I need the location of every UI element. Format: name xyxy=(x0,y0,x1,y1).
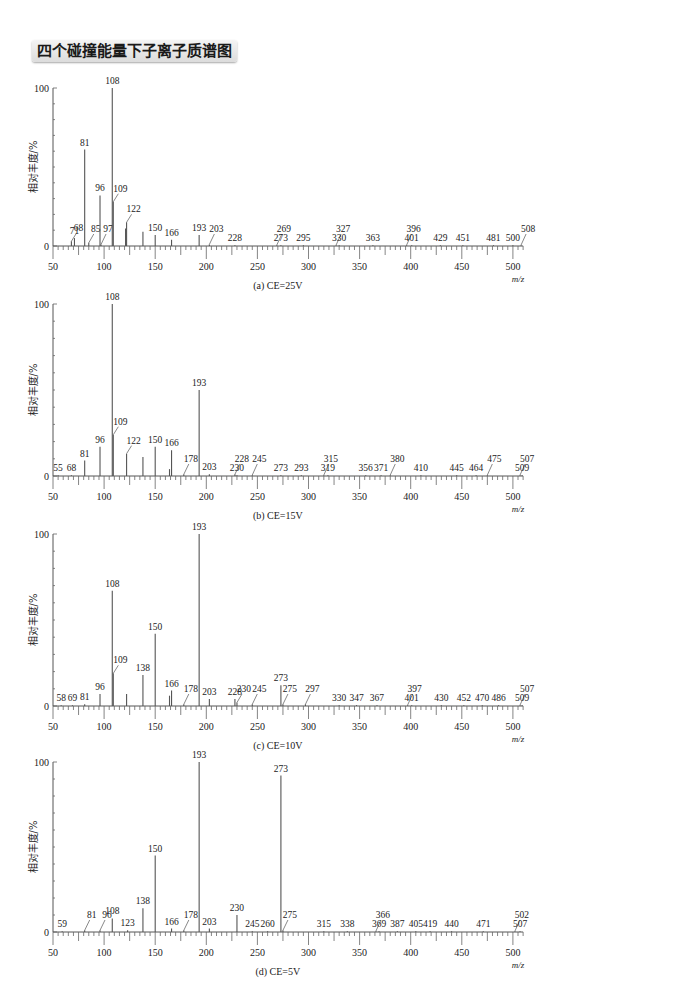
peak-label: 419 xyxy=(423,919,438,929)
peak-label: 440 xyxy=(444,919,459,929)
peak-label: 81 xyxy=(80,449,90,459)
peak-label: 500 xyxy=(506,233,521,243)
x-tick-label: 450 xyxy=(454,721,469,732)
x-tick-label: 500 xyxy=(505,261,520,272)
peak-label: 96 xyxy=(95,682,105,692)
y-tick-label: 100 xyxy=(34,299,49,310)
peak-label: 464 xyxy=(469,463,484,473)
peak-label: 81 xyxy=(80,692,90,702)
peak-label: 273 xyxy=(274,673,289,683)
x-axis-label: m/z xyxy=(512,734,525,744)
peak-label: 178 xyxy=(184,684,199,694)
peak-label: 509 xyxy=(515,463,530,473)
peak-label: 96 xyxy=(95,183,105,193)
peak-label: 367 xyxy=(370,693,385,703)
peak-label: 166 xyxy=(164,438,179,448)
peak-label: 319 xyxy=(321,463,336,473)
peak-label: 410 xyxy=(414,463,429,473)
panel-caption: (d) CE=5V xyxy=(255,966,301,978)
peak-label: 203 xyxy=(202,917,217,927)
y-axis-label: 相对丰度/% xyxy=(27,141,39,194)
x-tick-label: 50 xyxy=(48,261,58,272)
spectrum-chart-c: 0100相对丰度/%50100150200250300350400450500m… xyxy=(0,530,676,755)
peak-label: 150 xyxy=(148,622,163,632)
x-tick-label: 200 xyxy=(199,721,214,732)
peak-label: 273 xyxy=(274,233,289,243)
peak-label: 507 xyxy=(513,919,528,929)
peak-label: 96 xyxy=(95,435,105,445)
peak-label: 193 xyxy=(192,522,207,532)
x-tick-label: 250 xyxy=(250,721,265,732)
peak-label: 245 xyxy=(252,454,267,464)
peak-label: 387 xyxy=(390,919,405,929)
y-tick-label: 100 xyxy=(34,757,49,768)
x-tick-label: 150 xyxy=(148,947,163,958)
panel-caption: (a) CE=25V xyxy=(253,280,303,292)
peak-label: 230 xyxy=(230,903,245,913)
x-tick-label: 100 xyxy=(97,261,112,272)
peak-label: 509 xyxy=(515,693,530,703)
x-tick-label: 450 xyxy=(454,947,469,958)
peak-label: 275 xyxy=(283,910,298,920)
peak-label: 166 xyxy=(164,679,179,689)
x-tick-label: 400 xyxy=(403,947,418,958)
panel-caption: (b) CE=15V xyxy=(253,510,304,522)
x-tick-label: 350 xyxy=(352,947,367,958)
spectrum-panel-c: 0100相对丰度/%50100150200250300350400450500m… xyxy=(0,530,676,755)
y-tick-label: 0 xyxy=(44,927,49,938)
x-tick-label: 250 xyxy=(250,261,265,272)
peak-label: 123 xyxy=(120,918,135,928)
peak-label: 150 xyxy=(148,844,163,854)
peak-label: 471 xyxy=(476,919,491,929)
peak-label: 166 xyxy=(164,228,179,238)
peak-label: 451 xyxy=(456,233,471,243)
x-axis-label: m/z xyxy=(512,504,525,514)
peaks: 5568819610810912215016617819320322823024… xyxy=(53,292,534,476)
x-tick-label: 300 xyxy=(301,261,316,272)
peak-label: 452 xyxy=(457,693,472,703)
peak-label: 203 xyxy=(202,462,217,472)
peak-label: 108 xyxy=(105,76,120,86)
peak-label: 59 xyxy=(57,919,67,929)
x-tick-label: 400 xyxy=(403,261,418,272)
peak-label: 230 xyxy=(230,463,245,473)
x-tick-label: 350 xyxy=(352,261,367,272)
peak-label: 245 xyxy=(245,919,260,929)
peak-label: 193 xyxy=(192,750,207,760)
peak-label: 363 xyxy=(366,233,381,243)
peak-label: 430 xyxy=(434,693,449,703)
x-tick-label: 50 xyxy=(48,491,58,502)
peak-label: 109 xyxy=(113,417,128,427)
axes: 0100相对丰度/%50100150200250300350400450500m… xyxy=(27,299,525,522)
peak-label: 109 xyxy=(113,184,128,194)
y-tick-label: 100 xyxy=(34,83,49,94)
peak-label: 338 xyxy=(340,919,355,929)
x-tick-label: 300 xyxy=(301,491,316,502)
x-tick-label: 350 xyxy=(352,721,367,732)
x-tick-label: 500 xyxy=(505,491,520,502)
x-tick-label: 500 xyxy=(505,947,520,958)
peak-label: 371 xyxy=(374,463,389,473)
peak-label: 481 xyxy=(486,233,501,243)
peak-label: 138 xyxy=(136,896,151,906)
x-tick-label: 500 xyxy=(505,721,520,732)
x-tick-label: 250 xyxy=(250,491,265,502)
x-tick-label: 150 xyxy=(148,491,163,502)
peaks: 6871818596971081091221501661932032282692… xyxy=(70,76,536,246)
panel-caption: (c) CE=10V xyxy=(253,740,303,752)
peak-label: 69 xyxy=(68,693,78,703)
peak-label: 81 xyxy=(80,138,90,148)
peak-label: 245 xyxy=(252,684,267,694)
peak-label: 108 xyxy=(105,292,120,302)
y-axis-label: 相对丰度/% xyxy=(27,364,39,417)
peak-label: 401 xyxy=(405,693,420,703)
peak-label: 330 xyxy=(332,233,347,243)
peak-label: 178 xyxy=(184,910,199,920)
peak-label: 122 xyxy=(126,436,141,446)
axes: 0100相对丰度/%50100150200250300350400450500m… xyxy=(27,529,525,752)
figure-title: 四个碰撞能量下子离子质谱图 xyxy=(32,40,237,62)
peak-label: 369 xyxy=(372,919,387,929)
peak-label: 166 xyxy=(164,917,179,927)
x-tick-label: 200 xyxy=(199,491,214,502)
peak-label: 429 xyxy=(433,233,448,243)
